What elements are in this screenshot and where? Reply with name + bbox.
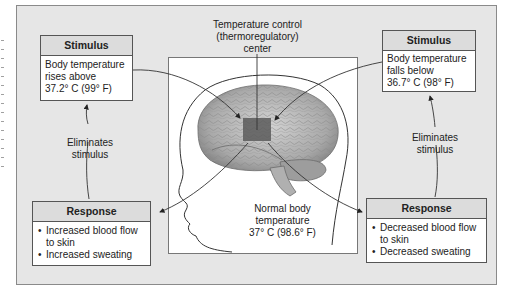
eliminates-stimulus-label-right: Eliminates stimulus xyxy=(400,132,470,156)
label-line: Eliminates xyxy=(55,137,125,149)
response-body: Decreased blood flow to skin Decreased s… xyxy=(367,219,486,261)
eliminates-stimulus-label-left: Eliminates stimulus xyxy=(55,137,125,161)
label-line: center xyxy=(200,43,315,55)
response-item: Decreased sweating xyxy=(371,246,482,258)
control-center-label: Temperature control (thermoregulatory) c… xyxy=(200,19,315,55)
body-line: Body temperature xyxy=(45,59,128,71)
response-body: Increased blood flow to skin Increased s… xyxy=(33,222,150,264)
response-list: Increased blood flow to skin Increased s… xyxy=(37,225,146,261)
response-item: Decreased blood flow to skin xyxy=(371,222,482,246)
item-line: Increased blood flow xyxy=(46,225,146,237)
stimulus-header: Stimulus xyxy=(383,31,475,51)
body-line: Body temperature xyxy=(387,53,471,65)
item-line: Decreased blood flow xyxy=(380,222,482,234)
stimulus-box-fall: Stimulus Body temperature falls below 36… xyxy=(382,30,476,92)
response-item: Increased blood flow to skin xyxy=(37,225,146,249)
body-line: 37.2° C (99° F) xyxy=(45,83,128,95)
label-line: Eliminates xyxy=(400,132,470,144)
stimulus-body: Body temperature rises above 37.2° C (99… xyxy=(41,56,132,98)
stimulus-body: Body temperature falls below 36.7° C (98… xyxy=(383,51,475,92)
label-line: Normal body xyxy=(235,203,330,215)
response-header: Response xyxy=(367,199,486,219)
response-box-warming: Response Decreased blood flow to skin De… xyxy=(366,198,487,263)
body-line: rises above xyxy=(45,71,128,83)
body-line: 36.7° C (98° F) xyxy=(387,77,471,89)
label-line: Temperature control xyxy=(200,19,315,31)
label-line: stimulus xyxy=(55,149,125,161)
item-line: Decreased sweating xyxy=(380,246,482,258)
response-header: Response xyxy=(33,202,150,222)
body-line: falls below xyxy=(387,65,471,77)
stimulus-header: Stimulus xyxy=(41,36,132,56)
response-list: Decreased blood flow to skin Decreased s… xyxy=(371,222,482,258)
label-line: temperature xyxy=(235,215,330,227)
response-item: Increased sweating xyxy=(37,249,146,261)
label-line: 37° C (98.6° F) xyxy=(235,227,330,239)
response-box-cooling: Response Increased blood flow to skin In… xyxy=(32,201,151,266)
item-line: to skin xyxy=(380,234,482,246)
label-line: (thermoregulatory) xyxy=(200,31,315,43)
normal-temperature-label: Normal body temperature 37° C (98.6° F) xyxy=(235,203,330,239)
label-line: stimulus xyxy=(400,144,470,156)
stimulus-box-rise: Stimulus Body temperature rises above 37… xyxy=(40,35,133,101)
item-line: to skin xyxy=(46,237,146,249)
item-line: Increased sweating xyxy=(46,249,146,261)
